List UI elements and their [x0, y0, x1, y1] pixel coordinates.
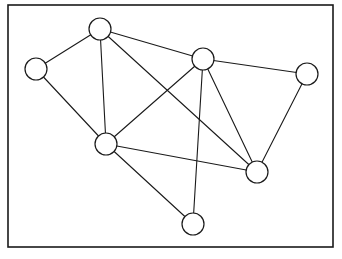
- graph-edge-C-E: [106, 59, 203, 144]
- diagram-frame-border: [8, 5, 333, 247]
- graph-node-B[interactable]: [25, 58, 47, 80]
- graph-node-F[interactable]: [246, 161, 268, 183]
- graph-edge-A-C: [100, 29, 203, 59]
- graph-node-C[interactable]: [192, 48, 214, 70]
- graph-edge-A-F: [100, 29, 257, 172]
- graph-node-D[interactable]: [296, 63, 318, 85]
- graph-node-E[interactable]: [95, 133, 117, 155]
- graph-diagram-canvas: [0, 0, 342, 259]
- graph-edge-C-G: [193, 59, 203, 224]
- graph-diagram-svg: [0, 0, 342, 259]
- graph-edge-E-G: [106, 144, 193, 224]
- graph-edge-A-E: [100, 29, 106, 144]
- graph-node-layer: [25, 18, 318, 235]
- graph-node-G[interactable]: [182, 213, 204, 235]
- graph-edge-D-F: [257, 74, 307, 172]
- graph-edge-C-F: [203, 59, 257, 172]
- graph-edge-C-D: [203, 59, 307, 74]
- graph-edge-layer: [36, 29, 307, 224]
- graph-edge-E-F: [106, 144, 257, 172]
- graph-edge-B-E: [36, 69, 106, 144]
- graph-node-A[interactable]: [89, 18, 111, 40]
